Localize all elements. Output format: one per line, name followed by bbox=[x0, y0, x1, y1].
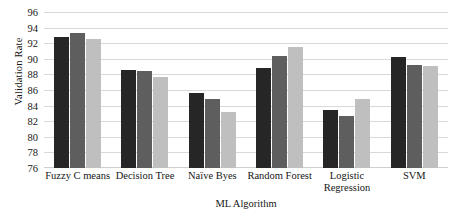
y-tick-86: 86 bbox=[28, 85, 39, 96]
bar[interactable] bbox=[339, 116, 354, 168]
bar-group bbox=[313, 12, 380, 168]
y-tick-90: 90 bbox=[28, 53, 39, 64]
bar[interactable] bbox=[137, 71, 152, 168]
bar[interactable] bbox=[153, 77, 168, 168]
x-category-label: Fuzzy C means bbox=[44, 170, 111, 193]
y-tick-84: 84 bbox=[28, 100, 39, 111]
y-tick-76: 76 bbox=[28, 163, 39, 174]
x-category-label: Decision Tree bbox=[111, 170, 178, 193]
x-axis-category-labels: Fuzzy C meansDecision TreeNaïve ByesRand… bbox=[44, 170, 448, 193]
bar[interactable] bbox=[355, 99, 370, 168]
bar-group bbox=[381, 12, 448, 168]
bar[interactable] bbox=[86, 39, 101, 168]
bar-chart-figure: Validation Rate 9694929088868482807876 F… bbox=[0, 0, 459, 219]
y-tick-96: 96 bbox=[28, 7, 39, 18]
bar[interactable] bbox=[323, 110, 338, 168]
y-tick-94: 94 bbox=[28, 22, 39, 33]
bar-group bbox=[111, 12, 178, 168]
y-tick-92: 92 bbox=[28, 38, 39, 49]
bar[interactable] bbox=[391, 57, 406, 168]
y-tick-78: 78 bbox=[28, 147, 39, 158]
x-category-label: Random Forest bbox=[246, 170, 313, 193]
bar[interactable] bbox=[121, 70, 136, 168]
bar-group bbox=[179, 12, 246, 168]
y-axis-tick-labels: 9694929088868482807876 bbox=[0, 12, 40, 168]
bar[interactable] bbox=[288, 47, 303, 168]
bar-group bbox=[44, 12, 111, 168]
y-tick-88: 88 bbox=[28, 69, 39, 80]
x-category-label: Naïve Byes bbox=[179, 170, 246, 193]
bar[interactable] bbox=[70, 33, 85, 168]
plot-area bbox=[44, 12, 448, 168]
x-category-label: LogisticRegression bbox=[313, 170, 380, 193]
bar[interactable] bbox=[407, 65, 422, 168]
bar[interactable] bbox=[221, 112, 236, 168]
bar[interactable] bbox=[423, 66, 438, 168]
bar[interactable] bbox=[256, 68, 271, 168]
bar[interactable] bbox=[189, 93, 204, 168]
bar-group bbox=[246, 12, 313, 168]
x-category-label: SVM bbox=[381, 170, 448, 193]
bar-groups bbox=[44, 12, 448, 168]
y-tick-80: 80 bbox=[28, 131, 39, 142]
bar[interactable] bbox=[54, 37, 69, 168]
bar[interactable] bbox=[272, 56, 287, 168]
bar[interactable] bbox=[205, 99, 220, 168]
y-tick-82: 82 bbox=[28, 116, 39, 127]
x-axis-title: ML Algorithm bbox=[44, 198, 448, 209]
